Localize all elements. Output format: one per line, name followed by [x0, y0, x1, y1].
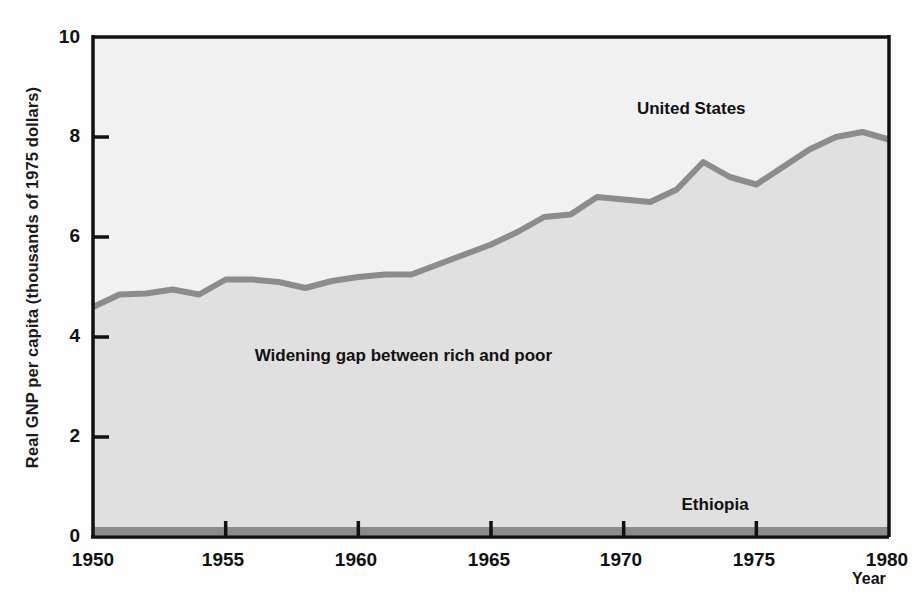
chart-annotation-gap: Widening gap between rich and poor — [255, 346, 552, 366]
chart-plot-area — [0, 0, 921, 604]
chart-figure: Real GNP per capita (thousands of 1975 d… — [0, 0, 921, 604]
series-label-united-states: United States — [637, 99, 746, 119]
series-label-ethiopia: Ethiopia — [682, 495, 749, 515]
